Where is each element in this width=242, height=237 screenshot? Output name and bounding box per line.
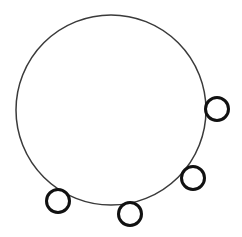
- small-circles-group: [47, 98, 229, 226]
- small-circle-2: [182, 167, 205, 190]
- diagram-canvas: [0, 0, 242, 237]
- small-circle-3: [119, 203, 142, 226]
- main-circle: [16, 15, 206, 205]
- small-circle-1: [206, 98, 229, 121]
- small-circle-4: [47, 190, 70, 213]
